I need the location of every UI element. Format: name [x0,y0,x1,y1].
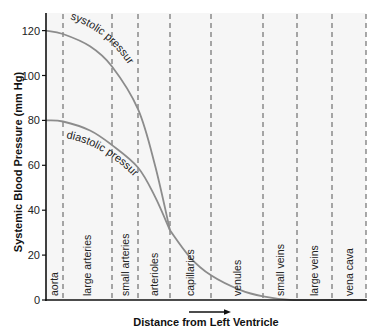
y-axis-ticks: 020406080100120 [22,25,46,306]
y-tick-label: 80 [28,114,40,126]
y-tick-label: 100 [22,70,40,82]
segment-label: large veins [308,245,320,296]
segment-label: arterioles [148,253,160,296]
y-tick-label: 60 [28,159,40,171]
y-tick-label: 0 [34,294,40,306]
blood-pressure-chart: systolic pressurediastolic pressure aort… [0,0,377,336]
y-tick-label: 20 [28,249,40,261]
segment-label: capillaries [184,249,196,296]
x-axis-title: Distance from Left Ventricle [133,316,279,328]
y-tick-label: 40 [28,204,40,216]
segment-label: large arteries [81,235,93,296]
segment-label: aorta [48,272,60,296]
segment-label: small arteries [119,234,131,296]
y-tick-label: 120 [22,25,40,37]
y-axis-title: Systemic Blood Pressure (mm Hg) [12,72,24,253]
segment-label: venules [231,260,243,296]
segment-label: vena cava [343,248,355,296]
flow-direction-arrow-icon [189,309,231,315]
segment-label: small veins [274,244,286,296]
